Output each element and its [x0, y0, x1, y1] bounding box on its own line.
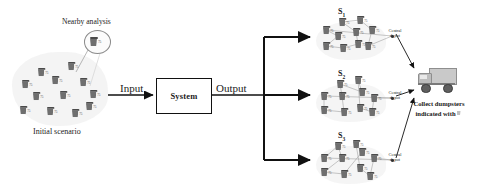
process-diagram: 757575757575757575757575 75 Nearby analy…	[0, 0, 479, 188]
central-depot-label: Centraldepot	[384, 90, 406, 100]
dumpster-capacity-label: 75	[93, 104, 96, 108]
dumpster-capacity-label: 75	[40, 94, 43, 98]
output-label: Output	[216, 83, 247, 94]
dumpster-capacity-label: 75	[360, 30, 363, 34]
dumpster-capacity-label: 75	[362, 78, 365, 82]
dumpster-capacity-label: 75	[330, 28, 333, 32]
dumpster-icon: 75	[86, 102, 98, 110]
dumpster-capacity-label: 75	[330, 44, 333, 48]
dumpster-capacity-label: 75	[348, 172, 351, 176]
dumpster-capacity-label: 75	[364, 18, 367, 22]
initial-scenario-cloud	[12, 52, 108, 126]
dumpster-icon: 75	[90, 90, 102, 98]
scenario-dumpster-icon: 75	[335, 142, 347, 150]
dumpster-capacity-label: 75	[346, 20, 349, 24]
dumpster-capacity-label: 75	[75, 64, 78, 68]
scenario-dumpster-icon: 75	[367, 172, 379, 180]
dumpster-capacity-label: 75	[366, 150, 369, 154]
dumpster-capacity-label: 75	[98, 40, 101, 44]
scenario-dumpster-icon: 75	[321, 168, 333, 176]
dumpster-icon: 75	[38, 68, 50, 76]
dumpster-icon: 75	[20, 106, 32, 114]
dumpster-icon: 75	[47, 107, 59, 115]
truck-caption-line1: Collect dumpsters	[413, 100, 464, 107]
scenario-dumpster-icon: 75	[359, 88, 371, 96]
central-depot-label: Centraldepot	[384, 28, 406, 38]
scenario-dumpster-icon: 75	[369, 108, 381, 116]
dumpster-capacity-label: 75	[87, 80, 90, 84]
scenario-dumpster-icon: 75	[340, 44, 352, 52]
truck-caption-line2: indicated with	[415, 110, 455, 117]
dumpster-capacity-label: 75	[342, 144, 345, 148]
dumpster-capacity-label: 75	[342, 34, 345, 38]
scenario-dumpster-icon: 75	[341, 108, 353, 116]
dumpster-capacity-label: 75	[376, 28, 379, 32]
system-label: System	[170, 91, 197, 101]
dumpster-capacity-label: 75	[366, 90, 369, 94]
system-box: System	[156, 78, 212, 114]
dumpster-icon: 75	[33, 92, 45, 100]
dumpster-capacity-label: 75	[374, 174, 377, 178]
dumpster-capacity-label: 75	[29, 82, 32, 86]
dumpster-capacity-label: 75	[27, 108, 30, 112]
scenario-dumpster-icon: 75	[321, 92, 333, 100]
scenario-dumpster-icon: 75	[355, 76, 367, 84]
scenario-dumpster-icon: 75	[359, 148, 371, 156]
dumpster-capacity-label: 75	[347, 46, 350, 50]
scenario-dumpster-icon: 75	[365, 42, 377, 50]
dumpster-icon	[457, 111, 463, 117]
scenario-dumpster-icon: 75	[339, 92, 351, 100]
central-depot-label-line2: depot	[384, 157, 406, 162]
scenario-dumpster-icon: 75	[371, 94, 383, 102]
dumpster-capacity-label: 75	[328, 156, 331, 160]
dumpster-icon: 75	[68, 62, 80, 70]
scenario-dumpster-icon: 75	[337, 80, 349, 88]
scenario-dumpster-icon: 75	[323, 42, 335, 50]
scenario-panel-s3: S375757575757575757575Centraldepot	[312, 132, 404, 186]
collection-truck-icon	[417, 66, 459, 92]
dumpster-capacity-label: 75	[346, 156, 349, 160]
scenario-dumpster-icon: 75	[353, 28, 365, 36]
dumpster-icon: 75	[22, 80, 34, 88]
dumpster-capacity-label: 75	[372, 44, 375, 48]
dumpster-icon: 75	[80, 78, 92, 86]
nearby-analysis-label: Nearby analysis	[62, 18, 111, 26]
scenario-panel-s2: S275757575757575757575Centraldepot	[312, 70, 404, 124]
scenario-dumpster-icon: 75	[339, 18, 351, 26]
scenario-dumpster-icon: 75	[369, 26, 381, 34]
dumpster-icon: 75	[52, 76, 64, 84]
dumpster-capacity-label: 75	[59, 78, 62, 82]
dumpster-capacity-label: 75	[364, 106, 367, 110]
dumpster-capacity-label: 75	[54, 109, 57, 113]
dumpster-icon: 75	[60, 91, 72, 99]
central-depot-label: Centraldepot	[384, 152, 406, 162]
dumpster-capacity-label: 75	[45, 70, 48, 74]
nearby-analysis-callout: 75	[84, 30, 111, 54]
scenario-dumpster-icon: 75	[357, 104, 369, 112]
scenario-dumpster-icon: 75	[341, 170, 353, 178]
scenario-dumpster-icon: 75	[321, 106, 333, 114]
dumpster-capacity-label: 75	[378, 96, 381, 100]
central-depot-label-line2: depot	[384, 33, 406, 38]
dumpster-icon: 75	[72, 109, 84, 117]
scenario-dumpster-icon: 75	[323, 26, 335, 34]
dumpster-capacity-label: 75	[364, 166, 367, 170]
callout-dumpster-icon: 75	[90, 37, 103, 46]
scenario-dumpster-icon: 75	[339, 154, 351, 162]
scenario-dumpster-icon: 75	[335, 32, 347, 40]
scenario-dumpster-icon: 75	[371, 154, 383, 162]
dumpster-capacity-label: 75	[328, 170, 331, 174]
dumpster-capacity-label: 75	[328, 94, 331, 98]
dumpster-capacity-label: 75	[344, 82, 347, 86]
dumpster-capacity-label: 75	[97, 92, 100, 96]
dumpster-capacity-label: 75	[79, 111, 82, 115]
truck-caption: Collect dumpsters indicated with	[405, 99, 473, 118]
dumpster-capacity-label: 75	[376, 110, 379, 114]
dumpster-capacity-label: 75	[378, 156, 381, 160]
dumpster-capacity-label: 75	[360, 142, 363, 146]
scenario-dumpster-icon: 75	[357, 16, 369, 24]
scenario-panel-s1: S175757575757575757575Centraldepot	[312, 8, 404, 62]
input-label: Input	[120, 83, 143, 94]
dumpster-capacity-label: 75	[67, 93, 70, 97]
dumpster-capacity-label: 75	[348, 110, 351, 114]
